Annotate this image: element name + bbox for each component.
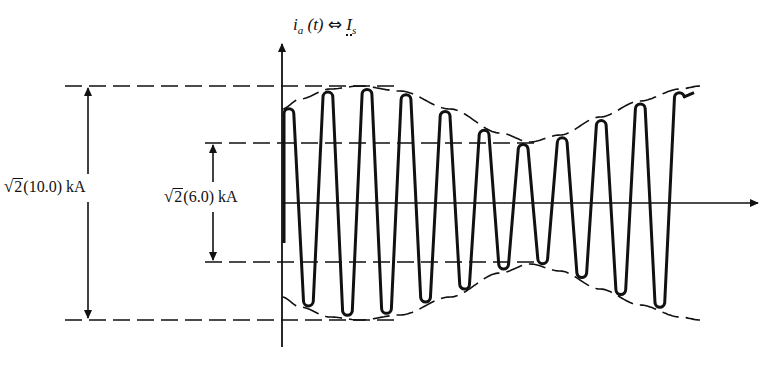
inner-unit: kA (218, 188, 238, 205)
phasor-subscript: s (352, 24, 356, 36)
sqrt-symbol: √2 (164, 187, 183, 207)
sqrt-argument: 2 (173, 188, 183, 204)
sqrt-argument: 2 (13, 178, 23, 194)
outer-unit: kA (66, 178, 86, 195)
y-axis-label: ia (t) ⇔ Is (293, 14, 356, 36)
waveform-diagram (0, 0, 782, 377)
time-argument: (t) (307, 15, 323, 34)
inner-dimension-label: √2(6.0) kA (164, 187, 238, 207)
outer-dimension-label: √2(10.0) kA (4, 177, 86, 197)
phase-subscript: a (298, 24, 304, 36)
sqrt-symbol: √2 (4, 177, 23, 197)
inner-value: (6.0) (183, 188, 214, 205)
outer-value: (10.0) (23, 178, 62, 195)
double-arrow-icon: ⇔ (328, 14, 342, 34)
lower-envelope (282, 264, 700, 320)
upper-envelope (282, 86, 700, 142)
